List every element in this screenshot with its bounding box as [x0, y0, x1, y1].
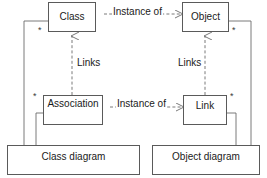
- multiplicity-object: *: [232, 26, 236, 35]
- multiplicity-class: *: [38, 26, 42, 35]
- node-link[interactable]: Link: [183, 95, 227, 125]
- multiplicity-association: *: [33, 92, 37, 101]
- edge-label-links-left: Links: [76, 58, 101, 68]
- edge-label-instance-of-bottom: Instance of: [116, 99, 167, 109]
- edge-label-links-right: Links: [177, 58, 202, 68]
- node-object-label: Object: [191, 12, 220, 22]
- node-class-diagram[interactable]: Class diagram: [7, 145, 140, 175]
- node-object-diagram[interactable]: Object diagram: [152, 145, 260, 175]
- node-association[interactable]: Association: [43, 95, 103, 125]
- node-class[interactable]: Class: [48, 2, 96, 32]
- connector-association-to-class-diagram: [36, 113, 43, 145]
- connector-class-to-class-diagram: [24, 21, 48, 145]
- uml-metamodel-diagram: Class, dashed arrow pointing left ===== …: [0, 0, 267, 178]
- node-association-label: Association: [47, 99, 98, 109]
- connector-link-to-object-diagram: [227, 113, 236, 145]
- connector-object-to-object-diagram: [229, 21, 251, 145]
- edge-label-instance-of-top: Instance of: [112, 7, 163, 17]
- node-object[interactable]: Object: [182, 2, 229, 32]
- node-object-diagram-label: Object diagram: [172, 152, 240, 162]
- node-link-label: Link: [196, 101, 214, 111]
- node-class-label: Class: [59, 12, 84, 22]
- multiplicity-link: *: [230, 92, 234, 101]
- node-class-diagram-label: Class diagram: [42, 152, 106, 162]
